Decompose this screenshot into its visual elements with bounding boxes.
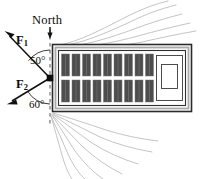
force1-label: F1 (16, 34, 28, 48)
force2-label: F2 (16, 78, 28, 92)
container-row-bottom (62, 80, 154, 102)
force2-symbol: F (16, 77, 24, 91)
force-diagram-figure: North F1 F2 50° 60° (0, 0, 204, 179)
wake-lines-top (55, 1, 196, 50)
north-label: North (32, 14, 62, 27)
force1-symbol: F (16, 33, 24, 47)
north-arrow-icon (47, 27, 52, 39)
deckhouse (157, 56, 183, 101)
origin-point-marker (47, 75, 54, 82)
wake-lines-bottom (51, 113, 158, 179)
angle-50-label: 50° (30, 55, 45, 66)
force1-subscript: 1 (24, 38, 28, 48)
force2-subscript: 2 (24, 82, 28, 92)
container-row-top (62, 54, 154, 76)
angle-60-label: 60° (29, 99, 44, 110)
diagram-canvas (0, 0, 204, 179)
